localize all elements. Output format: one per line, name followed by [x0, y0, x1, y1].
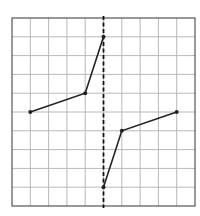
vertex-dot [102, 35, 106, 39]
vertex-dot [120, 129, 124, 133]
vertex-dot [28, 110, 32, 114]
vertex-dot [83, 91, 87, 95]
grid-lines [12, 18, 195, 206]
vertex-dot [175, 110, 179, 114]
reflection-grid-diagram [0, 0, 200, 216]
vertex-dot [102, 185, 106, 189]
